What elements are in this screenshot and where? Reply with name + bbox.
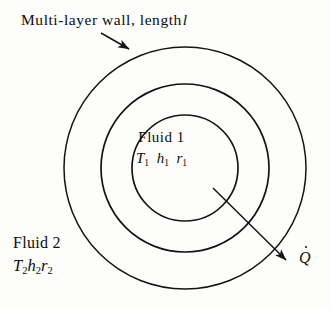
heat-flow-label: Q [299,249,311,268]
fluid2-symbols: T2h2r2 [13,256,61,277]
length-symbol: l [182,11,187,28]
fluid2-name: Fluid 2 [13,234,61,251]
fluid1-symbols: T1 h1 r1 [136,150,187,168]
fluid2-radius-symbol: r2 [41,256,53,275]
fluid2-temperature-symbol: T2 [13,256,27,275]
heat-flow-symbol: Q [299,249,311,268]
fluid1-radius-symbol: r1 [176,150,187,166]
fluid2-coefficient-symbol: h2 [27,256,41,275]
heat-flow-arrow [213,188,286,260]
fluid1-coefficient-symbol: h1 [157,150,169,166]
fluid1-label-group: Fluid 1 T1 h1 r1 [136,129,187,168]
wall-caption-text: Multi-layer wall, length [21,11,182,28]
heat-transfer-figure: Multi-layer wall, lengthl Fluid 1 T1 h1 … [0,0,331,310]
wall-callout-arrow [101,33,129,49]
fluid1-name: Fluid 1 [138,129,184,145]
wall-caption: Multi-layer wall, lengthl [21,11,187,29]
fluid1-temperature-symbol: T1 [136,150,149,166]
fluid2-label-group: Fluid 2 T2h2r2 [13,234,61,277]
middle-circle [101,84,269,252]
